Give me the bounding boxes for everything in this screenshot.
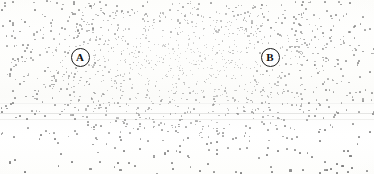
paper-vignette [0, 0, 374, 174]
map-marker-a-label: A [76, 52, 84, 63]
map-marker-b-label: B [266, 52, 273, 63]
map-marker-a[interactable]: A [71, 48, 90, 67]
map-marker-b[interactable]: B [261, 48, 280, 67]
dot-density-figure: A B [0, 0, 374, 174]
